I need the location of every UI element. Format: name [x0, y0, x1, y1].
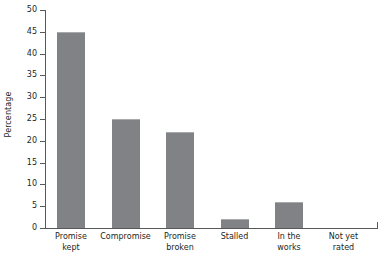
bar-chart: Percentage 05101520253035404550 Promisek…: [0, 0, 386, 259]
category-label-line2: kept: [38, 243, 104, 254]
y-axis-tick-label: 30: [7, 93, 37, 101]
y-axis-tick: [40, 75, 45, 76]
bar: [112, 119, 140, 228]
y-axis-tick-label: 40: [7, 50, 37, 58]
y-axis-tick-label: 5: [7, 202, 37, 210]
category-label-line1: Promise: [55, 232, 87, 241]
y-axis-tick-label: 15: [7, 159, 37, 167]
y-axis-tick: [40, 10, 45, 11]
bar: [221, 219, 249, 228]
y-axis-tick-label: 35: [7, 71, 37, 79]
y-axis-tick: [40, 54, 45, 55]
plot-area: [46, 10, 378, 228]
y-axis-tick: [40, 163, 45, 164]
category-label-line2: rated: [311, 243, 377, 254]
y-axis-tick: [40, 97, 45, 98]
bar: [57, 32, 85, 228]
bar: [166, 132, 194, 228]
y-axis-tick-label: 0: [7, 224, 37, 232]
category-label-line1: In the: [277, 232, 300, 241]
y-axis-tick: [40, 141, 45, 142]
category-label-line1: Stalled: [221, 232, 249, 241]
bar: [275, 202, 303, 228]
y-axis-tick-label: 45: [7, 28, 37, 36]
y-axis-tick: [40, 206, 45, 207]
category-label-line2: broken: [147, 243, 213, 254]
x-axis-line: [45, 228, 378, 229]
y-axis-tick-label: 25: [7, 115, 37, 123]
y-axis-tick: [40, 228, 45, 229]
y-axis-tick: [40, 32, 45, 33]
y-axis-tick-label: 50: [7, 6, 37, 14]
category-label-line1: Not yet: [329, 232, 358, 241]
y-axis-tick: [40, 184, 45, 185]
y-axis-tick: [40, 119, 45, 120]
y-axis-tick-label: 10: [7, 180, 37, 188]
category-label-line1: Promise: [164, 232, 196, 241]
category-label-line1: Compromise: [100, 232, 150, 241]
y-axis-tick-label: 20: [7, 137, 37, 145]
x-axis-category-label: Not yetrated: [311, 232, 377, 253]
